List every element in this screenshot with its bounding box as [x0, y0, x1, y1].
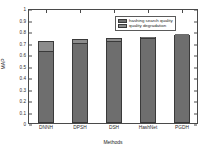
- y-tick-label: 0.2: [20, 100, 26, 105]
- y-tick-mark: [29, 113, 32, 114]
- y-tick-label: 0: [23, 123, 26, 128]
- bar-segment-hashing-search-quality: [175, 34, 189, 122]
- bar-segment-hashing-search-quality: [73, 42, 87, 123]
- x-tick-mark-top: [148, 10, 149, 13]
- y-tick-mark-right: [194, 67, 197, 68]
- bar-segment-quality-degradation: [107, 39, 121, 41]
- y-tick-mark: [29, 79, 32, 80]
- bar-pgdh: [174, 35, 190, 123]
- x-tick-label-hashnet: HashNet: [139, 126, 158, 131]
- y-tick-mark: [29, 10, 32, 11]
- y-tick-label: 0.3: [20, 88, 26, 93]
- bar-segment-quality-degradation: [39, 42, 53, 52]
- x-tick-mark-top: [80, 10, 81, 13]
- y-tick-label: 0.4: [20, 77, 26, 82]
- bar-dpsh: [72, 39, 88, 123]
- bar-segment-hashing-search-quality: [107, 40, 121, 122]
- y-tick-mark: [29, 90, 32, 91]
- chart-figure: MAP Methods 00.10.20.30.40.50.60.70.80.9…: [0, 0, 211, 149]
- y-tick-mark-right: [194, 44, 197, 45]
- y-tick-mark: [29, 67, 32, 68]
- bar-segment-hashing-search-quality: [39, 50, 53, 122]
- y-tick-mark: [29, 102, 32, 103]
- y-tick-mark-right: [194, 79, 197, 80]
- bar-hashnet: [140, 37, 156, 123]
- x-tick-mark-top: [114, 10, 115, 13]
- x-tick-mark-top: [46, 10, 47, 13]
- y-tick-label: 1: [23, 8, 26, 13]
- legend-swatch-hashing-search-quality: [118, 19, 127, 23]
- y-tick-label: 0.1: [20, 111, 26, 116]
- chart-legend: hashing search quality quality degradati…: [115, 16, 176, 31]
- y-tick-label: 0.7: [20, 42, 26, 47]
- x-tick-label-pgdh: PGDH: [175, 126, 189, 131]
- legend-item-quality-degradation: quality degradation: [118, 24, 173, 28]
- y-tick-label: 0.8: [20, 31, 26, 36]
- y-tick-mark: [29, 33, 32, 34]
- y-tick-mark-right: [194, 56, 197, 57]
- y-tick-mark: [29, 44, 32, 45]
- bar-dnnh: [38, 41, 54, 123]
- y-tick-mark-right: [194, 113, 197, 114]
- y-tick-label: 0.9: [20, 19, 26, 24]
- x-tick-label-dsh: DSH: [109, 126, 119, 131]
- y-tick-mark-right: [194, 21, 197, 22]
- y-tick-mark: [29, 21, 32, 22]
- y-tick-mark-right: [194, 90, 197, 91]
- bar-segment-quality-degradation: [73, 40, 87, 43]
- y-tick-label: 0.5: [20, 65, 26, 70]
- x-tick-label-dpsh: DPSH: [73, 126, 86, 131]
- legend-label-quality-degradation: quality degradation: [129, 24, 166, 28]
- y-tick-mark: [29, 125, 32, 126]
- x-tick-mark-top: [182, 10, 183, 13]
- bar-segment-quality-degradation: [141, 38, 155, 39]
- y-tick-mark-right: [194, 33, 197, 34]
- y-axis-label: MAP: [0, 58, 6, 69]
- y-tick-mark: [29, 56, 32, 57]
- bar-dsh: [106, 38, 122, 123]
- bar-segment-hashing-search-quality: [141, 37, 155, 122]
- y-tick-mark-right: [194, 102, 197, 103]
- x-axis-label: Methods: [103, 139, 122, 145]
- y-tick-mark-right: [194, 10, 197, 11]
- x-tick-label-dnnh: DNNH: [39, 126, 53, 131]
- legend-swatch-quality-degradation: [118, 24, 127, 28]
- y-tick-mark-right: [194, 125, 197, 126]
- plot-area: 00.10.20.30.40.50.60.70.80.91 DNNHDPSHDS…: [28, 9, 198, 124]
- y-tick-label: 0.6: [20, 54, 26, 59]
